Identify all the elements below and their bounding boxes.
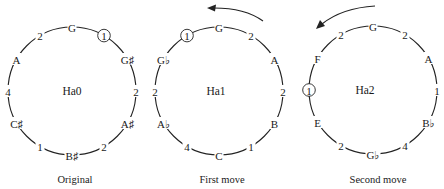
interval-label: 2 [152, 86, 158, 98]
arrowhead-icon [207, 5, 216, 12]
note-label: A [13, 54, 21, 66]
interval-node: 1 [247, 140, 256, 153]
note-node: G [215, 21, 224, 34]
interval-node: 2 [337, 29, 346, 42]
note-label: A♯ [121, 118, 135, 130]
interval-label: 2 [248, 30, 254, 42]
interval-label: 4 [5, 86, 11, 98]
arrowhead-icon [316, 20, 325, 29]
center-label: Ha2 [355, 84, 374, 96]
note-node: A♯ [120, 117, 135, 130]
interval-node: 2 [279, 85, 288, 98]
note-label: G [369, 21, 377, 33]
note-node: A [270, 53, 279, 66]
interval-node: 2 [337, 139, 346, 152]
note-node: G♭ [156, 53, 171, 66]
note-label: C [215, 150, 222, 162]
interval-label: 1 [434, 85, 440, 97]
rotation-arrow-icon [214, 8, 263, 21]
interval-label: 4 [402, 140, 408, 152]
note-node: A♭ [156, 117, 171, 130]
note-node: B♯ [65, 149, 80, 162]
interval-label: 2 [37, 30, 43, 42]
note-label: F [315, 53, 321, 65]
circled-step-node: 1 [181, 29, 194, 42]
note-label: B [271, 118, 278, 130]
note-node: C♯ [9, 117, 24, 130]
note-node: G [68, 21, 77, 34]
interval-node: 4 [4, 85, 13, 98]
interval-node: 2 [100, 140, 109, 153]
note-node: C [215, 149, 224, 162]
interval-node: 1 [36, 140, 45, 153]
panel-original: G1G♯2A♯2B♯1C♯4A2 Ha0 Original [4, 21, 141, 185]
panel-caption: First move [199, 174, 245, 185]
note-node: A [12, 53, 21, 66]
panel-first-move: G2A2B1C4A♭2G♭1 Ha1 First move [151, 5, 288, 185]
note-node: F [313, 52, 322, 65]
note-label: G♯ [121, 54, 135, 66]
note-node: E [313, 116, 322, 129]
interval-node: 4 [401, 139, 410, 152]
interval-label: 1 [248, 141, 254, 153]
interval-label: 2 [280, 86, 286, 98]
note-label: G [68, 22, 76, 34]
interval-label: 4 [184, 141, 190, 153]
interval-node: 2 [132, 85, 141, 98]
note-label: A [424, 53, 432, 65]
note-label: C♯ [10, 118, 23, 130]
interval-node: 1 [433, 84, 442, 97]
circled-step-node: 1 [98, 29, 111, 42]
note-node: G [369, 20, 378, 33]
note-label: G♭ [157, 54, 170, 66]
center-label: Ha1 [206, 85, 225, 97]
note-label: B♭ [422, 117, 435, 129]
panel-second-move: G2A1B♭4G♭2E1F2 Ha2 Second move [303, 6, 442, 185]
interval-label: 1 [184, 30, 190, 42]
note-label: A [270, 54, 278, 66]
note-label: B♯ [66, 150, 79, 162]
note-label: G♭ [366, 149, 379, 161]
center-label: Ha0 [62, 85, 81, 97]
note-node: A [424, 52, 433, 65]
note-label: A♭ [157, 118, 170, 130]
note-node: B [270, 117, 279, 130]
interval-label: 1 [101, 30, 107, 42]
interval-label: 1 [306, 85, 312, 97]
panel-caption: Original [58, 174, 93, 185]
interval-node: 2 [247, 30, 256, 43]
interval-label: 2 [402, 29, 408, 41]
interval-node: 4 [183, 140, 192, 153]
interval-node: 2 [151, 85, 160, 98]
interval-node: 2 [36, 30, 45, 43]
interval-node: 2 [401, 29, 410, 42]
circled-step-node: 1 [303, 84, 316, 97]
note-node: B♭ [421, 116, 436, 129]
note-node: G♭ [366, 148, 381, 161]
interval-label: 2 [338, 29, 344, 41]
interval-label: 1 [37, 141, 43, 153]
note-label: E [314, 117, 321, 129]
interval-label: 2 [101, 141, 107, 153]
interval-label: 2 [338, 140, 344, 152]
note-label: G [215, 22, 223, 34]
rotation-diagram: G1G♯2A♯2B♯1C♯4A2 Ha0 Original G2A2B1C4A♭… [0, 0, 444, 189]
interval-label: 2 [133, 86, 139, 98]
rotation-arrow-icon [322, 6, 375, 24]
panel-caption: Second move [350, 174, 407, 185]
note-node: G♯ [120, 53, 135, 66]
